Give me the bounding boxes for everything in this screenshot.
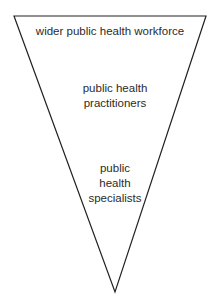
level-3-line-1: public [30,161,200,176]
level-3-line-3: specialists [30,191,200,206]
level-2-line-1: public health [30,81,200,96]
triangle-outline [14,16,206,292]
level-practitioners: public health practitioners [30,81,200,111]
level-2-line-2: practitioners [30,96,200,111]
inverted-triangle [0,0,208,303]
level-specialists: public health specialists [30,161,200,206]
level-1-line-1: wider public health workforce [14,24,206,39]
level-3-line-2: health [30,176,200,191]
level-wider-workforce: wider public health workforce [14,24,206,39]
